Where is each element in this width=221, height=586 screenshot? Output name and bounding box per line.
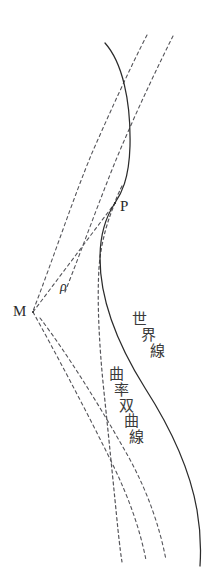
point-label-p: P — [120, 199, 128, 214]
world-line-label-char: 線 — [150, 344, 165, 360]
radius-label-rho: ρ — [60, 280, 67, 294]
figure-canvas-root: P M ρ 世 界 線 曲 率 双 曲 線 — [0, 0, 221, 586]
curvature-hyperbola-label-char: 線 — [129, 430, 144, 446]
diagram-background — [0, 0, 221, 586]
tangency-point-marker — [114, 202, 116, 204]
geometry-diagram — [0, 0, 221, 586]
world-line-label: 世 界 線 — [132, 312, 165, 359]
curvature-hyperbola-label: 曲 率 双 曲 線 — [109, 367, 144, 446]
point-label-m: M — [13, 304, 26, 319]
center-point-marker — [32, 311, 34, 313]
